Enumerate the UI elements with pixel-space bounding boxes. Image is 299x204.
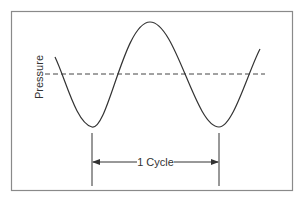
pressure-wave-diagram: 1 Cycle Pressure bbox=[0, 0, 299, 204]
cycle-label: 1 Cycle bbox=[137, 156, 174, 168]
y-axis-label: Pressure bbox=[33, 55, 45, 99]
sine-wave bbox=[55, 22, 260, 127]
